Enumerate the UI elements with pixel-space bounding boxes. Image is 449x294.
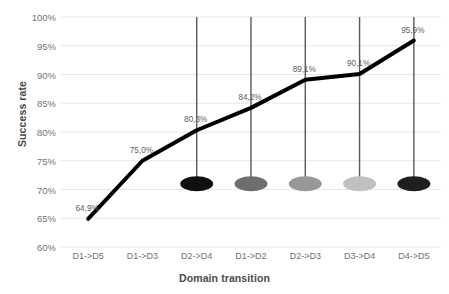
data-point-label: 89,1% xyxy=(293,65,316,74)
plot-area xyxy=(0,0,449,294)
lollipop-head xyxy=(343,176,376,191)
lollipop-head xyxy=(235,176,268,191)
lollipop-head xyxy=(289,176,322,191)
chart-container: Success rate 100%95%90%85%80%75%70%65%60… xyxy=(0,0,449,294)
lollipop-head xyxy=(397,176,430,191)
lollipop-head xyxy=(180,176,213,191)
x-axis-tick-labels: D1->D5D1->D3D2->D4D1->D2D2->D3D3->D4D4->… xyxy=(0,251,449,269)
data-point-label: 64,9% xyxy=(76,204,99,213)
data-point-label: 95,9% xyxy=(401,26,424,35)
data-point-label: 75,0% xyxy=(130,146,153,155)
data-point-label: 84,2% xyxy=(238,93,261,102)
lollipop-stems xyxy=(197,17,414,184)
x-axis-tick-label: D4->D5 xyxy=(374,251,449,261)
data-point-label: 90,1% xyxy=(347,59,370,68)
x-axis-title: Domain transition xyxy=(0,272,449,284)
data-point-label: 80,3% xyxy=(184,115,207,124)
